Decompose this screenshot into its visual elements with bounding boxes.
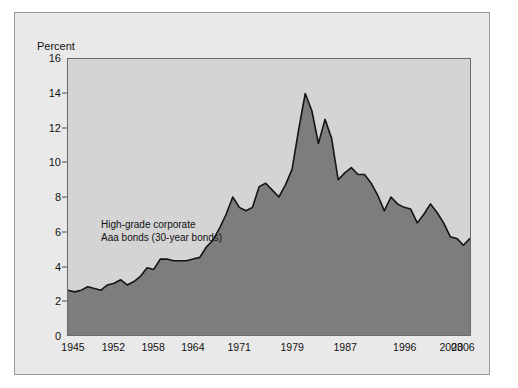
y-tick-mark — [62, 127, 67, 128]
x-tick-label: 1996 — [393, 341, 416, 353]
y-tick-mark — [62, 266, 67, 267]
y-tick-mark — [62, 197, 67, 198]
y-tick-label: 2 — [55, 295, 61, 307]
figure-frame: Percent 0246810121416 194519521958196419… — [14, 12, 490, 375]
y-tick-label: 0 — [55, 330, 61, 342]
plot-area — [67, 58, 471, 336]
annotation-line-1: High-grade corporate — [101, 218, 222, 231]
area-fill-shape — [68, 94, 470, 336]
y-tick-mark — [62, 301, 67, 302]
x-tick-label: 1971 — [228, 341, 251, 353]
x-tick-label: 2006 — [451, 341, 474, 353]
y-tick-label: 16 — [49, 52, 61, 64]
y-tick-label: 8 — [55, 191, 61, 203]
annotation-line-2: Aaa bonds (30-year bonds) — [101, 231, 222, 244]
x-tick-label: 1979 — [280, 341, 303, 353]
y-tick-label: 10 — [49, 156, 61, 168]
area-series-chart — [68, 59, 470, 335]
y-tick-mark — [62, 162, 67, 163]
x-tick-label: 1964 — [181, 341, 204, 353]
series-annotation: High-grade corporate Aaa bonds (30-year … — [101, 218, 222, 244]
x-tick-label: 1987 — [333, 341, 356, 353]
y-tick-label: 4 — [55, 261, 61, 273]
y-tick-mark — [62, 92, 67, 93]
x-tick-label: 1958 — [141, 341, 164, 353]
y-tick-mark — [62, 231, 67, 232]
plot-wrapper: 0246810121416 19451952195819641971197919… — [67, 58, 471, 336]
y-tick-label: 6 — [55, 226, 61, 238]
y-tick-label: 14 — [49, 87, 61, 99]
y-tick-label: 12 — [49, 122, 61, 134]
y-axis-title: Percent — [37, 40, 75, 52]
x-tick-label: 1952 — [102, 341, 125, 353]
x-tick-label: 1945 — [61, 341, 84, 353]
